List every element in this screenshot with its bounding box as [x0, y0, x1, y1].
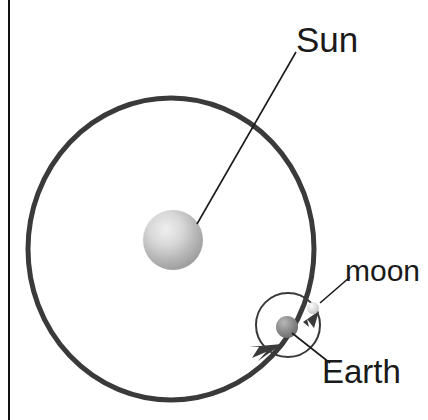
moon-label: moon	[345, 254, 420, 287]
sun-leader-line	[197, 52, 296, 224]
earth-label: Earth	[322, 353, 401, 390]
sun-earth-moon-diagram: Sun moon Earth	[0, 0, 428, 420]
sun-sphere	[143, 210, 203, 270]
moon-sphere	[307, 302, 319, 314]
sun-label: Sun	[296, 20, 358, 59]
left-page-rule	[8, 0, 10, 420]
diagram-canvas: Sun moon Earth	[0, 0, 428, 420]
